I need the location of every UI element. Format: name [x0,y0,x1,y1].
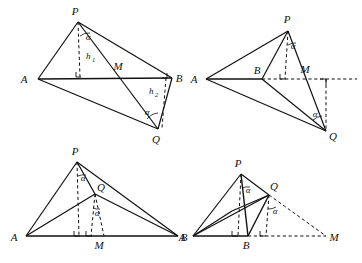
figure-1-label-alpha-top: α [86,32,91,42]
figure-4-edge-interior-Q [232,195,269,211]
figure-1-label-h2-group: h 2 [149,86,159,98]
figure-1-label-B: B [176,72,183,84]
figure-1-label-h1-base: h [86,51,91,61]
figure-1-label-M: M [112,60,123,72]
figure-2-label-M: M [299,63,310,75]
figure-3-label-alpha-bottom: α [95,208,100,218]
figure-3-edge-QB [95,194,178,236]
figure-4-edge-AP [193,174,241,236]
figure-1-edge-AB [38,78,172,79]
figure-3-label-Q: Q [97,181,105,193]
figure-1-edge-AP [38,22,78,79]
figure-4-right-angle-foot-Q [260,231,266,236]
figure-4-label-P: P [234,157,242,169]
figure-4-edge-AQ [193,195,269,236]
figure-2-label-alpha-top: α [291,41,296,51]
figure-1-group: P A B Q M α α h 1 h 2 [20,5,183,145]
figure-1-height-h1 [78,22,80,77]
figure-3-edge-AP [26,162,77,236]
figure-2-label-B: B [254,64,261,76]
figure-4-label-Q: Q [270,180,278,192]
figure-1-label-h1-group: h 1 [86,51,95,63]
figure-4-edge-A-interior [193,211,232,236]
figure-1-label-h2-subscript: 2 [155,91,159,98]
figure-2-edge-AQ [206,79,326,131]
figure-4-label-A: A [178,231,186,243]
figure-2-label-P: P [283,13,291,25]
figure-4-group: P Q A B M α α [178,157,340,251]
figure-2-label-A: A [190,73,198,85]
figure-3-label-P: P [71,145,79,157]
figure-1-label-alpha-bottom: α [145,107,150,117]
figure-3-label-alpha-top: α [81,173,86,183]
figure-2-right-angle-foot-Q [320,79,326,85]
figure-4-label-M: M [328,231,339,243]
geometry-figure-sheet: P A B Q M α α h 1 h 2 P [0,0,362,263]
figure-4-label-alpha-top: α [246,185,251,195]
figure-2-group: P A B M Q α α [190,13,357,142]
figure-1-label-A: A [20,73,28,85]
figure-1-edge-PB [78,22,172,78]
figure-2-label-alpha-bottom: α [313,109,318,119]
figure-3-height-from-P [77,162,79,236]
figure-3-label-M: M [93,239,104,251]
figure-3-group: P Q A B M α α [10,145,188,251]
figure-4-height-from-P [238,174,241,236]
figure-3-edge-AQ [26,194,95,236]
figure-4-label-alpha-bottom: α [273,206,278,216]
figure-4-label-B: B [243,239,250,251]
figure-2-edge-AP [206,31,288,79]
figure-1-label-h2-base: h [149,86,154,96]
figure-2-height-from-P [285,31,288,79]
figure-4-dashed-QM [269,195,326,236]
figure-1-label-P: P [71,5,79,17]
figure-1-label-h1-subscript: 1 [92,56,95,63]
geometry-diagram-canvas: P A B Q M α α h 1 h 2 P [0,0,362,263]
figure-3-label-A: A [10,231,18,243]
figure-1-label-Q: Q [152,133,160,145]
figure-2-label-Q: Q [329,130,337,142]
